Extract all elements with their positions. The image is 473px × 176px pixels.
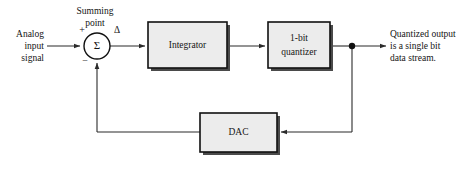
- block-integrator[interactable]: Integrator: [148, 22, 230, 71]
- junction-dot: [349, 43, 355, 49]
- quantizer-label-line2: quantizer: [281, 47, 317, 57]
- block-diagram: Σ + − Δ Integrator 1-bit quantizer DAC S…: [0, 0, 473, 176]
- summing-point: Σ + − Δ: [79, 24, 120, 66]
- sigma-symbol: Σ: [94, 39, 100, 51]
- quantizer-box: [268, 22, 330, 68]
- input-label-line3: signal: [21, 53, 44, 63]
- output-label-line3: data stream.: [390, 53, 436, 63]
- block-dac[interactable]: DAC: [200, 113, 280, 155]
- dac-label: DAC: [228, 127, 248, 137]
- output-label-line2: is a single bit: [390, 41, 441, 51]
- minus-sign: −: [82, 55, 88, 66]
- output-label-line1: Quantized output: [390, 29, 456, 39]
- summing-caption-line2: point: [85, 18, 105, 28]
- diagram-canvas: Σ + − Δ Integrator 1-bit quantizer DAC S…: [0, 0, 473, 176]
- output-label: Quantized output is a single bit data st…: [390, 29, 456, 63]
- input-label-line2: input: [24, 41, 44, 51]
- summing-caption-line1: Summing: [77, 6, 114, 16]
- delta-label: Δ: [114, 25, 120, 35]
- block-quantizer[interactable]: 1-bit quantizer: [268, 22, 333, 71]
- integrator-label: Integrator: [169, 40, 207, 50]
- input-label-line1: Analog: [16, 29, 44, 39]
- input-label: Analog input signal: [16, 29, 44, 63]
- quantizer-label-line1: 1-bit: [290, 33, 308, 43]
